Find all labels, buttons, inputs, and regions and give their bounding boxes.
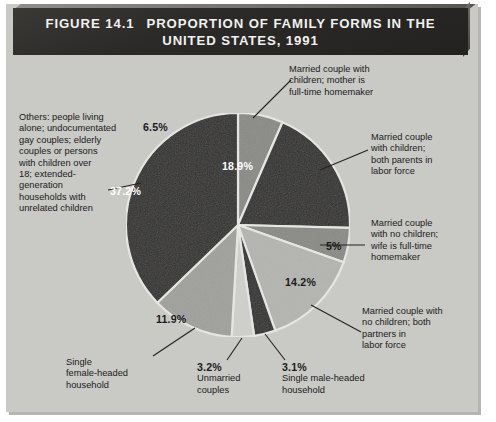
pie-value-label-18-9: 18.9% — [222, 160, 253, 172]
figure-title-part-1: PROPORTION OF FAMILY FORMS IN THE — [146, 16, 435, 31]
figure-number: FIGURE 14.1 — [45, 16, 134, 31]
callout-line: couples or persons — [19, 146, 98, 156]
callout-line: partners in — [362, 329, 406, 339]
pie-value-label-6-5: 6.5% — [143, 121, 168, 133]
leader-line-married-nochildren-both-labor — [311, 305, 361, 332]
callout-line: both parents in — [371, 155, 433, 165]
callout-line: wife is full-time — [371, 241, 432, 251]
callout-single-male-headed: 3.1% Single male-headed household — [282, 362, 402, 396]
callout-line: Married couple — [371, 132, 433, 142]
leader-line-married-children-homemaker — [253, 80, 291, 118]
callout-line: 18; extended- — [19, 169, 76, 179]
callout-line: Single — [66, 357, 92, 367]
callout-line: household — [282, 385, 325, 395]
callout-line: Single male-headed — [282, 373, 365, 383]
callout-line: Married couple — [371, 218, 433, 228]
pie-value-label-5: 5% — [326, 240, 342, 252]
callout-line: with children; — [371, 143, 425, 153]
callout-percent: 3.2% — [197, 362, 277, 373]
callout-line: alone; undocumentated — [19, 123, 116, 133]
callout-married-children-homemaker: Married couple with children; mother is … — [289, 64, 419, 98]
figure-header-text: FIGURE 14.1PROPORTION OF FAMILY FORMS IN… — [13, 8, 468, 55]
callout-line: couples — [197, 385, 229, 395]
callout-unmarried-couples: 3.2% Unmarried couples — [197, 362, 277, 396]
callout-line: generation — [19, 180, 63, 190]
callout-line: household — [66, 380, 109, 390]
pie-value-label-14-2: 14.2% — [285, 276, 316, 288]
figure-container: FIGURE 14.1PROPORTION OF FAMILY FORMS IN… — [0, 0, 496, 422]
callout-percent: 3.1% — [282, 362, 402, 373]
callout-single-female-headed: Single female-headed household — [66, 357, 166, 391]
callout-line: with no children; — [371, 229, 438, 239]
leader-line-single-female-headed — [153, 328, 195, 356]
callout-others: Others: people living alone; undocumenta… — [19, 112, 141, 215]
figure-title-line-2: UNITED STATES, 1991 — [162, 32, 319, 49]
figure-title-line-1: FIGURE 14.1PROPORTION OF FAMILY FORMS IN… — [45, 15, 435, 32]
callout-married-nochildren-wife-homemaker: Married couple with no children; wife is… — [371, 218, 476, 264]
pie-value-label-11-9: 11.9% — [156, 313, 186, 325]
callout-line: Others: people living — [19, 112, 104, 122]
callout-line: full-time homemaker — [289, 87, 373, 97]
callout-line: homemaker — [371, 252, 420, 262]
callout-line: labor force — [371, 166, 415, 176]
callout-married-children-both-labor: Married couple with children; both paren… — [371, 132, 476, 178]
callout-line: gay couples; elderly — [19, 135, 101, 145]
callout-line: no children; both — [362, 317, 431, 327]
leader-line-single-male-headed — [265, 334, 285, 360]
pie-slices — [126, 113, 350, 337]
callout-line: Unmarried — [197, 373, 240, 383]
callout-line: unrelated children — [19, 203, 93, 213]
callout-line: Married couple with — [289, 64, 370, 74]
callout-line: labor force — [362, 340, 406, 350]
callout-married-nochildren-both-labor: Married couple with no children; both pa… — [362, 306, 474, 352]
callout-line: with children over — [19, 158, 91, 168]
callout-line: households with — [19, 192, 86, 202]
chart-body: 6.5% 18.9% 5% 14.2% 11.9% 37.2% Married … — [13, 60, 468, 405]
callout-line: Married couple with — [362, 306, 443, 316]
callout-line: female-headed — [66, 368, 128, 378]
callout-line: children; mother is — [289, 75, 365, 85]
leader-line-unmarried-couples — [227, 338, 242, 360]
